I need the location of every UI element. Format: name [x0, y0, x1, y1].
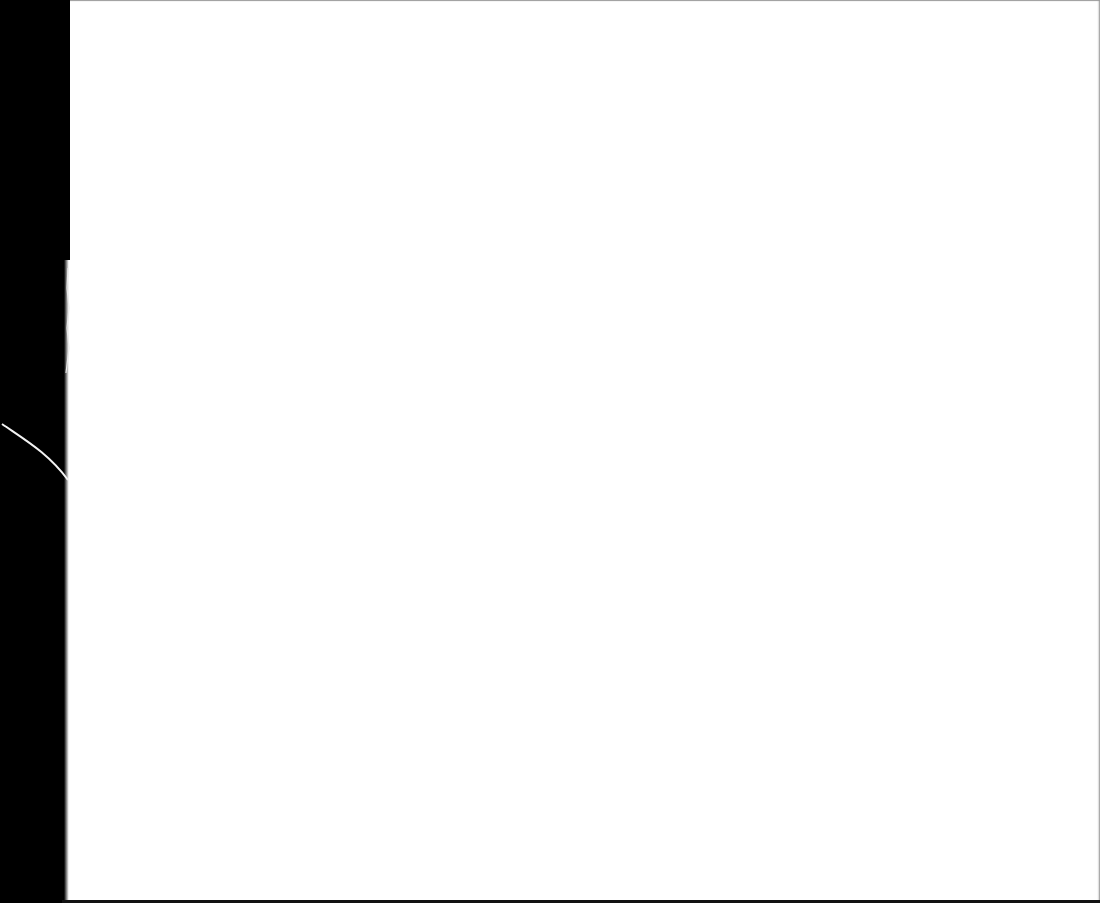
blank-paper-sheet — [70, 0, 1100, 901]
photo-scene — [0, 0, 1100, 903]
thread-fiber — [0, 415, 75, 490]
paper-fiber-fringe — [64, 268, 72, 378]
